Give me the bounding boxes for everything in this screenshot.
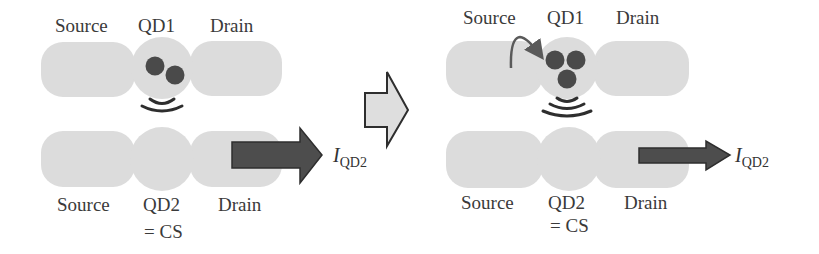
- source-electrode: [446, 131, 543, 188]
- current-label: IQD2: [332, 144, 367, 170]
- quantum-dot-qd2: [130, 127, 194, 191]
- right-bottom-row: IQD2 Source QD2 Drain = CS: [446, 127, 769, 236]
- electron-dot: [146, 57, 165, 76]
- electron-dot: [567, 51, 586, 70]
- electron-dot: [546, 51, 565, 70]
- cs-label: = CS: [550, 215, 589, 236]
- drain-label: Drain: [210, 15, 254, 36]
- drain-label: Drain: [616, 7, 660, 28]
- cs-label: = CS: [144, 221, 183, 242]
- source-label: Source: [463, 7, 516, 28]
- coupling-wave-icon: [543, 98, 591, 116]
- source-electrode: [446, 41, 543, 97]
- left-top-row: Source QD1 Drain: [41, 15, 282, 111]
- drain-label: Drain: [218, 194, 262, 215]
- left-bottom-row: IQD2 Source QD2 Drain = CS: [41, 127, 367, 242]
- source-label: Source: [461, 192, 514, 213]
- source-electrode: [41, 42, 135, 97]
- left-panel: Source QD1 Drain IQD2 Source QD2 Drain =…: [41, 15, 367, 242]
- coupling-wave-icon: [142, 99, 182, 111]
- source-electrode: [41, 131, 135, 187]
- drain-electrode: [190, 41, 282, 96]
- quantum-dot-qd1: [536, 37, 598, 99]
- qd1-label: QD1: [547, 7, 584, 28]
- electron-dot: [558, 70, 577, 89]
- current-label: IQD2: [734, 144, 769, 170]
- right-arrow-icon: [365, 72, 408, 146]
- qd2-label: QD2: [143, 194, 180, 215]
- right-panel: Source QD1 Drain IQD2 Source QD2 Drain =…: [446, 7, 769, 236]
- charge-sensing-diagram: Source QD1 Drain IQD2 Source QD2 Drain =…: [0, 0, 819, 254]
- qd2-label: QD2: [548, 192, 585, 213]
- quantum-dot-qd2: [537, 127, 601, 191]
- drain-label: Drain: [624, 192, 668, 213]
- source-label: Source: [55, 15, 108, 36]
- right-top-row: Source QD1 Drain: [446, 7, 689, 116]
- qd1-label: QD1: [138, 15, 175, 36]
- electron-dot: [166, 66, 185, 85]
- drain-electrode: [594, 41, 689, 96]
- source-label: Source: [57, 194, 110, 215]
